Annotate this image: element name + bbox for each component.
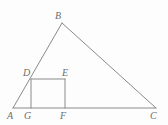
vertex-label-a: A — [7, 111, 13, 121]
vertex-label-d: D — [23, 68, 30, 78]
vertex-label-b: B — [55, 11, 61, 21]
inscribed-square-defg — [31, 79, 65, 108]
vertex-label-e: E — [62, 68, 68, 78]
geometry-figure: A B C D E F G — [0, 0, 168, 125]
geometry-canvas — [0, 0, 168, 125]
triangle-abc — [13, 23, 156, 108]
vertex-label-c: C — [150, 111, 157, 121]
segment-bc — [62, 23, 156, 108]
vertex-label-f: F — [60, 111, 66, 121]
segment-ab — [13, 23, 62, 108]
vertex-label-g: G — [24, 111, 31, 121]
